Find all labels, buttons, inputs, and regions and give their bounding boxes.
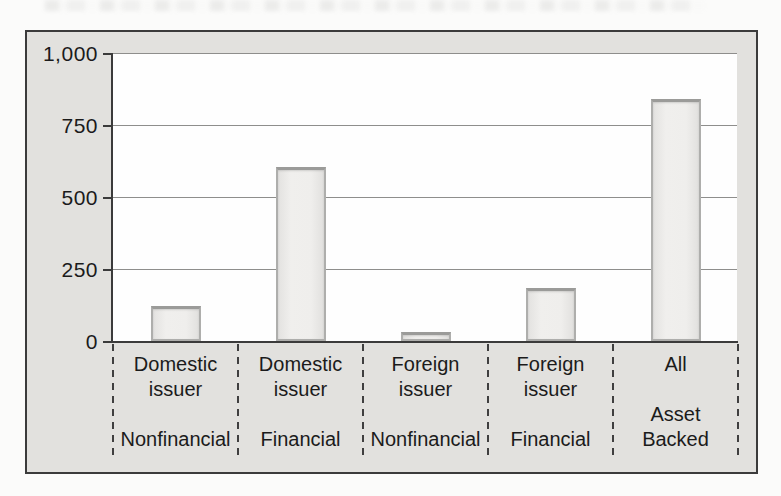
category-sector-label: Asset Backed — [613, 402, 738, 452]
category-issuer-label: Domestic issuer — [238, 352, 363, 402]
category-cell: Foreign issuer Nonfinancial — [363, 343, 488, 472]
plot-area — [113, 53, 737, 341]
bar-foreign-nonfinancial — [401, 332, 451, 341]
category-issuer-label: All — [613, 352, 738, 377]
category-cell: Domestic issuer Financial — [238, 343, 363, 472]
category-separator — [612, 344, 614, 459]
y-tick-mark — [103, 53, 111, 55]
category-sector-label: Nonfinancial — [363, 427, 488, 452]
y-tick-mark — [103, 341, 111, 343]
y-axis — [111, 53, 113, 342]
y-tick-mark — [103, 269, 111, 271]
y-tick-label-250: 250 — [28, 259, 98, 280]
category-sector-label: Financial — [238, 427, 363, 452]
bar-domestic-nonfinancial — [151, 306, 201, 341]
gridline-500 — [113, 197, 737, 198]
bar-all-asset-backed — [651, 99, 701, 341]
category-separator — [237, 344, 239, 459]
gridline-1000 — [113, 53, 737, 54]
y-tick-label-0: 0 — [28, 331, 98, 352]
print-bleed-artifact — [45, 0, 705, 11]
category-cell: All Asset Backed — [613, 343, 738, 472]
category-label-band: Domestic issuer Nonfinancial Domestic is… — [113, 343, 739, 472]
gridline-250 — [113, 269, 737, 270]
y-tick-label-750: 750 — [28, 115, 98, 136]
y-tick-label-1000: 1,000 — [28, 43, 98, 64]
category-cell: Domestic issuer Nonfinancial — [113, 343, 238, 472]
category-cell: Foreign issuer Financial — [488, 343, 613, 472]
bar-foreign-financial — [526, 288, 576, 341]
y-tick-mark — [103, 125, 111, 127]
category-separator — [487, 344, 489, 459]
gridline-750 — [113, 125, 737, 126]
category-separator — [362, 344, 364, 459]
category-issuer-label: Domestic issuer — [113, 352, 238, 402]
category-separator — [737, 344, 739, 459]
y-tick-mark — [103, 197, 111, 199]
category-sector-label: Nonfinancial — [113, 427, 238, 452]
category-issuer-label: Foreign issuer — [488, 352, 613, 402]
category-sector-label: Financial — [488, 427, 613, 452]
category-issuer-label: Foreign issuer — [363, 352, 488, 402]
chart-figure: 1,000 750 500 250 0 Domestic issuer Nonf… — [25, 30, 758, 474]
category-separator — [112, 344, 114, 459]
bar-domestic-financial — [276, 167, 326, 341]
y-tick-label-500: 500 — [28, 187, 98, 208]
